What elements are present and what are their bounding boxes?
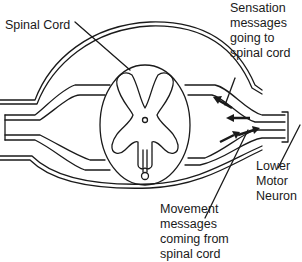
- sensation-arrowhead-1: [226, 114, 234, 122]
- outer-sheath-top-inner: [0, 26, 262, 104]
- sensation-arrow-2: [218, 100, 232, 108]
- label-spinal-cord: Spinal Cord: [5, 18, 70, 33]
- central-canal: [143, 118, 148, 123]
- label-sensation-line-3: going to: [230, 31, 274, 46]
- spinal-cord-diagram: Spinal Cord Sensation messages going to …: [0, 0, 302, 262]
- label-lower-motor-neuron-line-1: Lower: [256, 159, 290, 174]
- median-fissure-end: [142, 173, 149, 180]
- label-sensation-line-2: messages: [230, 16, 287, 31]
- label-movement-line-1: Movement: [160, 202, 218, 217]
- movement-arrow-1: [220, 135, 234, 142]
- label-lower-motor-neuron-line-3: Neuron: [256, 189, 297, 204]
- leader-spinal-cord: [75, 22, 130, 70]
- label-movement-line-4: spinal cord: [160, 247, 220, 262]
- leader-sensation: [225, 78, 235, 105]
- spinal-cord-oval: [100, 65, 190, 185]
- outer-sheath-bottom-inner: [0, 146, 262, 184]
- label-sensation-line-4: spinal cord: [230, 46, 290, 61]
- label-movement-line-2: messages: [160, 217, 217, 232]
- label-lower-motor-neuron-line-2: Motor: [256, 174, 288, 189]
- label-movement-line-3: coming from: [160, 232, 229, 247]
- left-root-top-inner: [5, 95, 105, 120]
- grey-matter: [112, 73, 178, 169]
- label-sensation-line-1: Sensation: [230, 1, 286, 16]
